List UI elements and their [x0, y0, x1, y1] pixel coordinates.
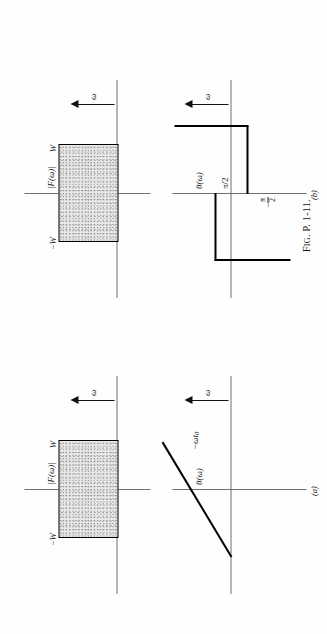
magnitude-block	[58, 440, 118, 538]
caption-rest: . P. 1-11.	[300, 199, 311, 237]
omega-axis-label: ω	[88, 94, 97, 100]
figure-page: |F(ω)| −W W ω θ(ω) −ωt0 ω (a)	[0, 0, 327, 634]
omega-axis-arrow	[190, 104, 228, 105]
magnitude-block	[58, 144, 118, 242]
phase-level-negative-segment	[246, 126, 248, 194]
curve-label-text: −ωt	[189, 435, 199, 450]
x-tick-label-right: W	[48, 145, 57, 152]
x-tick-label-left: −W	[48, 237, 57, 250]
omega-axis-arrow	[76, 104, 114, 105]
x-axis	[230, 376, 231, 594]
curve-label-subscript: 0	[193, 432, 200, 435]
panel-phase-a: θ(ω) −ωt0 ω (a)	[168, 350, 316, 600]
curve-label: −ωt0	[190, 432, 200, 450]
phase-level-positive-text: π/2	[219, 177, 229, 189]
omega-axis-arrow	[190, 400, 228, 401]
figure-caption: Fig. P. 1-11.	[300, 199, 311, 252]
caption-first-letter: F	[300, 246, 311, 252]
caption-smallcaps: ig	[302, 237, 311, 246]
fraction-numerator: π	[258, 197, 268, 203]
omega-axis-arrow	[76, 400, 114, 401]
y-axis-label: θ(ω)	[194, 172, 203, 189]
omega-axis-label: ω	[202, 390, 211, 396]
panel-phase-b: θ(ω) π/2 −π2 ω (b)	[168, 54, 316, 304]
rotated-figure-stage: |F(ω)| −W W ω θ(ω) −ωt0 ω (a)	[0, 0, 327, 634]
minus-sign: −	[263, 203, 272, 208]
phase-level-positive-label: π/2	[220, 177, 229, 189]
x-tick-label-left: −W	[48, 533, 57, 546]
y-axis-label: |F(ω)|	[46, 462, 55, 485]
y-axis	[172, 193, 306, 194]
y-axis-label: |F(ω)|	[46, 166, 55, 189]
fraction-denominator: 2	[268, 197, 277, 203]
subcaption-a: (a)	[308, 486, 318, 496]
panel-magnitude-b: |F(ω)| −W W ω	[12, 54, 152, 304]
phase-level-negative-label: −π2	[258, 197, 276, 208]
phase-jump-right	[174, 125, 248, 127]
linear-phase-ray	[161, 442, 232, 558]
x-tick-label-right: W	[48, 441, 57, 448]
omega-axis-label: ω	[88, 390, 97, 396]
y-axis-label: θ(ω)	[194, 468, 203, 485]
omega-axis-label: ω	[202, 94, 211, 100]
pi-over-two-fraction: π2	[258, 197, 276, 203]
phase-level-positive-segment	[214, 193, 216, 261]
phase-jump-left	[214, 259, 290, 261]
x-axis	[230, 80, 231, 298]
panel-magnitude-a: |F(ω)| −W W ω	[12, 350, 152, 600]
